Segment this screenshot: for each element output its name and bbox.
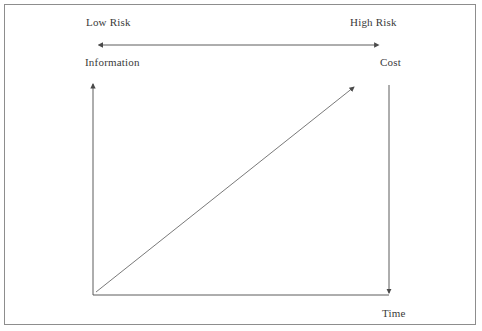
trend-line	[96, 87, 354, 292]
label-time-axis: Time	[382, 307, 406, 319]
label-low-risk: Low Risk	[86, 16, 131, 28]
label-cost-axis: Cost	[380, 56, 401, 68]
diagram-canvas	[0, 0, 482, 331]
label-high-risk: High Risk	[350, 16, 397, 28]
figure-root: Low Risk High Risk Information Cost Time	[0, 0, 482, 331]
label-information-axis: Information	[85, 56, 140, 68]
